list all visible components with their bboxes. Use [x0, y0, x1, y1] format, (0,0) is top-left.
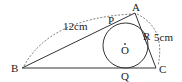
label-o: O — [121, 44, 129, 56]
triangle-incircle-diagram: A B C P Q R O 12cm 5cm — [0, 0, 182, 82]
label-c: C — [159, 63, 166, 75]
label-a: A — [132, 1, 140, 13]
label-b: B — [11, 62, 18, 74]
label-p: P — [108, 14, 114, 26]
label-r: R — [143, 30, 151, 42]
measurement-ab: 12cm — [63, 20, 88, 32]
label-q: Q — [121, 70, 129, 82]
measurement-ac: 5cm — [154, 31, 173, 43]
